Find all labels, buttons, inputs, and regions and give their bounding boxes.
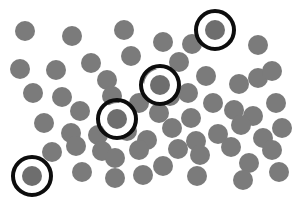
circle-marker-ring (11, 155, 53, 197)
dot (153, 156, 173, 176)
dot (153, 32, 173, 52)
dot (72, 162, 92, 182)
dot (105, 168, 125, 188)
dot (46, 60, 66, 80)
dot (248, 35, 268, 55)
dot (133, 165, 153, 185)
dot (114, 20, 134, 40)
dot (121, 46, 141, 66)
dot (203, 93, 223, 113)
dot (168, 139, 188, 159)
dot (262, 140, 282, 160)
dot (231, 115, 251, 135)
circle-marker-ring (96, 98, 138, 140)
dot (62, 26, 82, 46)
dot (178, 83, 198, 103)
dot (52, 87, 72, 107)
dot (10, 59, 30, 79)
circle-marker-ring (139, 64, 181, 106)
dot (23, 83, 43, 103)
dot (262, 61, 282, 81)
dot (70, 101, 90, 121)
dot (272, 118, 292, 138)
dot (221, 137, 241, 157)
dot (190, 145, 210, 165)
dot (81, 53, 101, 73)
dot (66, 136, 86, 156)
dot (34, 113, 54, 133)
dot-field-canvas (0, 0, 295, 204)
dot (15, 21, 35, 41)
dot (229, 74, 249, 94)
dot (162, 118, 182, 138)
dot (233, 170, 253, 190)
dot (187, 166, 207, 186)
dot (266, 93, 286, 113)
dot (105, 148, 125, 168)
circle-marker-ring (194, 9, 236, 51)
dot (181, 108, 201, 128)
dot (196, 66, 216, 86)
dot (269, 162, 289, 182)
dot (129, 140, 149, 160)
